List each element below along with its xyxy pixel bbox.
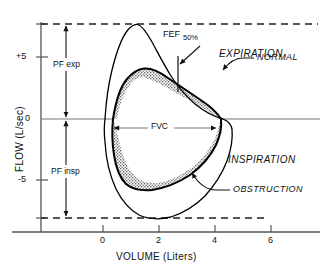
x-axis-ticks	[103, 225, 271, 232]
fef-50-annotation-marker	[178, 46, 200, 92]
y-tick-label-pos5: +5	[16, 52, 26, 61]
obstruction-label: OBSTRUCTION	[233, 185, 303, 194]
fef-50-leader	[180, 46, 200, 64]
y-axis-title: FLOW (L/sec)	[14, 106, 25, 172]
x-tick-label-2: 2	[156, 236, 161, 245]
inspiration-label: INSPIRATION	[228, 155, 296, 165]
x-axis-title: VOLUME (Liters)	[116, 252, 197, 262]
pf-insp-label: PF insp	[51, 167, 80, 176]
normal-leader	[223, 58, 254, 70]
y-axis-ticks	[36, 24, 48, 218]
chart-canvas	[0, 0, 329, 277]
flow-volume-loop-figure: FLOW (L/sec) +5 0 -5 0 2 4 6 VOLUME (Lit…	[0, 0, 329, 277]
y-tick-label-neg5: -5	[18, 175, 26, 184]
obstruction-leader	[192, 173, 230, 190]
fef-label: FEF	[163, 30, 180, 39]
y-tick-label-zero: 0	[25, 114, 30, 123]
x-tick-label-0: 0	[100, 236, 105, 245]
pf-exp-label: PF exp	[53, 60, 80, 69]
x-tick-label-4: 4	[212, 236, 217, 245]
normal-label: NORMAL	[257, 53, 298, 62]
x-tick-label-6: 6	[268, 236, 273, 245]
fvc-label: FVC	[151, 122, 168, 131]
fef-50-percent-label: 50%	[183, 34, 198, 42]
